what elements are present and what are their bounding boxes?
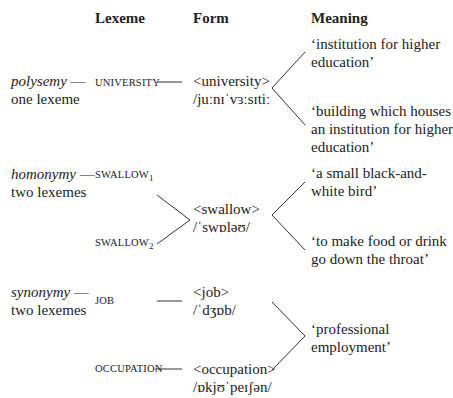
header-form: Form xyxy=(193,9,229,27)
form-job: <job> /ˈdʒɒb/ xyxy=(193,283,236,319)
orthographic-form: <university> xyxy=(193,73,270,89)
form-swallow: <swallow> /ˈswɒləʊ/ xyxy=(193,200,260,236)
form-university: <university> /juːnɪˈvɜːsɪtiː xyxy=(193,72,270,108)
lexeme-swallow-2: SWALLOW2 xyxy=(95,234,154,255)
relation-note: one lexeme xyxy=(11,91,80,107)
orthographic-form: <occupation> xyxy=(193,361,276,377)
phonetic-form: /ˈswɒləʊ/ xyxy=(193,219,250,235)
orthographic-form: <job> xyxy=(193,284,229,300)
lexeme-swallow-1: SWALLOW1 xyxy=(95,166,154,187)
relation-note: two lexemes xyxy=(11,302,86,318)
lexeme-university: UNIVERSITY xyxy=(95,74,160,92)
lexeme-occupation: OCCUPATION xyxy=(95,360,163,378)
phonetic-form: /ɒkjʊˈpeɪʃən/ xyxy=(193,379,272,395)
relation-homonymy: homonymy — two lexemes xyxy=(11,165,95,201)
form-occupation: <occupation> /ɒkjʊˈpeɪʃən/ xyxy=(193,360,276,396)
meaning-university-1: ‘institution for higher education’ xyxy=(311,35,440,71)
header-lexeme: Lexeme xyxy=(95,9,145,27)
meaning-professional-employment: ‘professional employment’ xyxy=(311,320,391,356)
phonetic-form: /ˈdʒɒb/ xyxy=(193,302,236,318)
phonetic-form: /juːnɪˈvɜːsɪtiː xyxy=(193,91,270,107)
meaning-swallow-1: ‘a small black-and- white bird’ xyxy=(311,164,427,200)
meaning-swallow-2: ‘to make food or drink go down the throa… xyxy=(311,232,447,268)
bracket-synonymy-meaning xyxy=(272,302,305,370)
relation-name: homonymy xyxy=(11,166,76,182)
relation-polysemy: polysemy — one lexeme xyxy=(11,72,86,108)
lexeme-job: JOB xyxy=(95,292,114,310)
meaning-university-2: ‘building which houses an institution fo… xyxy=(311,102,453,156)
bracket-homonymy-meanings xyxy=(272,182,305,250)
bracket-polysemy-meanings xyxy=(272,52,305,125)
relation-name: synonymy xyxy=(11,284,70,300)
relation-note: two lexemes xyxy=(11,184,86,200)
orthographic-form: <swallow> xyxy=(193,201,260,217)
bracket-homonymy-lexemes xyxy=(157,195,190,244)
header-meaning: Meaning xyxy=(311,9,368,27)
relation-name: polysemy xyxy=(11,73,67,89)
relation-synonymy: synonymy — two lexemes xyxy=(11,283,89,319)
